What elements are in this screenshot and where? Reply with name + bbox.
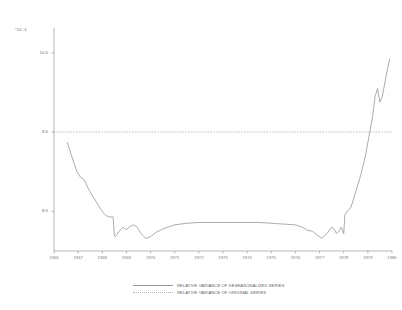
x-axis-tick-label: 1979: [357, 255, 379, 260]
data-series-0: [67, 59, 389, 238]
legend-label-deseasonalized: RELATIVE VARIANCE OF DESEASONALIZED SERI…: [177, 283, 285, 288]
chart-axes: [54, 28, 392, 251]
legend-item-original: RELATIVE VARIANCE OF ORIGINAL SERIES: [133, 289, 373, 296]
x-axis-tick-label: 1972: [188, 255, 210, 260]
x-axis-tick-label: 1969: [115, 255, 137, 260]
legend-key-dotted-icon: [133, 292, 173, 293]
legend-label-original: RELATIVE VARIANCE OF ORIGINAL SERIES: [177, 290, 266, 295]
line-chart-plot: [0, 0, 402, 310]
x-axis-tick-label: 1975: [260, 255, 282, 260]
y-axis-tick-label: 8.5: [26, 208, 48, 213]
chart-legend: RELATIVE VARIANCE OF DESEASONALIZED SERI…: [133, 282, 373, 296]
x-axis-tick-label: 1967: [67, 255, 89, 260]
x-axis-tick-label: 1970: [140, 255, 162, 260]
chart-figure: *10 -4 8.59.510.5 1966196719681969197019…: [0, 0, 402, 310]
legend-key-solid-icon: [133, 285, 173, 286]
x-axis-tick-label: 1971: [164, 255, 186, 260]
y-axis-tick-label: 10.5: [26, 50, 48, 55]
y-axis-tick-label: 9.5: [26, 129, 48, 134]
x-axis-tick-label: 1973: [212, 255, 234, 260]
x-axis-tick-label: 1976: [284, 255, 306, 260]
x-axis-tick-label: 1977: [309, 255, 331, 260]
x-axis-tick-label: 1978: [333, 255, 355, 260]
x-axis-tick-label: 1980: [381, 255, 402, 260]
x-axis-tick-label: 1968: [91, 255, 113, 260]
legend-item-deseasonalized: RELATIVE VARIANCE OF DESEASONALIZED SERI…: [133, 282, 373, 289]
x-axis-tick-label: 1966: [43, 255, 65, 260]
x-axis-tick-label: 1974: [236, 255, 258, 260]
